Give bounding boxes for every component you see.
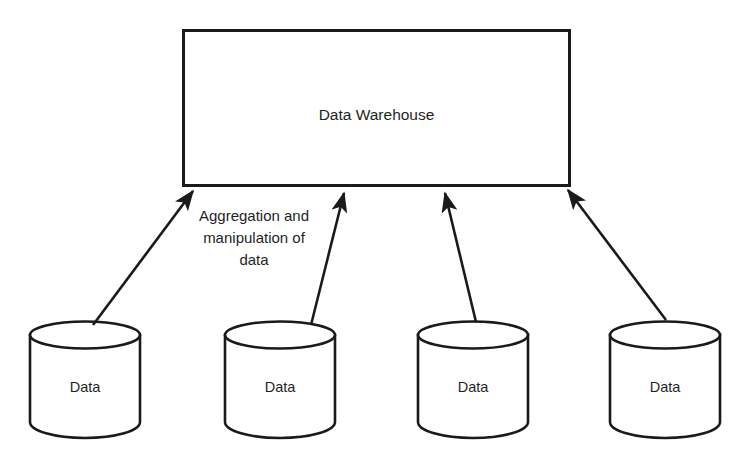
data-source-cylinder-3 [418, 322, 528, 438]
arrow-source-4-to-warehouse [568, 190, 666, 320]
cylinder-top-ellipse [30, 322, 140, 349]
diagram-canvas: Data Warehouse Aggregation and manipulat… [0, 0, 742, 454]
cylinder-top-ellipse [418, 322, 528, 349]
arrow-source-1-to-warehouse [93, 191, 193, 325]
arrow-source-3-to-warehouse [445, 193, 476, 322]
arrow-source-2-to-warehouse [311, 193, 344, 325]
data-source-cylinder-4 [610, 322, 720, 439]
data-warehouse-box [184, 31, 570, 186]
data-source-cylinder-1 [30, 322, 140, 439]
cylinder-top-ellipse [610, 322, 720, 349]
diagram-graphics [0, 0, 742, 454]
cylinder-top-ellipse [225, 322, 335, 349]
data-source-cylinder-2 [225, 322, 335, 439]
